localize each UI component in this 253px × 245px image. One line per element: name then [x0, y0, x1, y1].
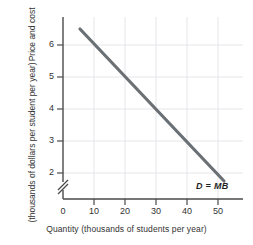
y-tick-label-3: 3	[38, 135, 54, 145]
x-tick-label-20: 20	[115, 206, 135, 216]
x-tick-label-10: 10	[84, 206, 104, 216]
y-axis-title-units: (thousands of dollars per student per ye…	[26, 62, 38, 222]
y-tick-label-6: 6	[38, 39, 54, 49]
horizontal-gridlines	[63, 45, 243, 173]
y-axis-title-main: Price and cost	[26, 7, 38, 61]
x-tick-label-40: 40	[177, 206, 197, 216]
x-tick-label-30: 30	[146, 206, 166, 216]
y-tick-label-5: 5	[38, 71, 54, 81]
x-axis-title: Quantity (thousands of students per year…	[0, 224, 253, 234]
y-tick-label-2: 2	[38, 167, 54, 177]
demand-curve-label: D = MB	[196, 181, 229, 191]
x-tick-label-50: 50	[208, 206, 228, 216]
y-tick-label-4: 4	[38, 103, 54, 113]
x-tick-label-0: 0	[53, 206, 73, 216]
chart-container: (thousands of dollars per student per ye…	[0, 0, 253, 245]
x-axis-ticks	[94, 199, 218, 205]
y-axis-ticks	[57, 45, 63, 173]
demand-curve-line	[80, 29, 224, 181]
